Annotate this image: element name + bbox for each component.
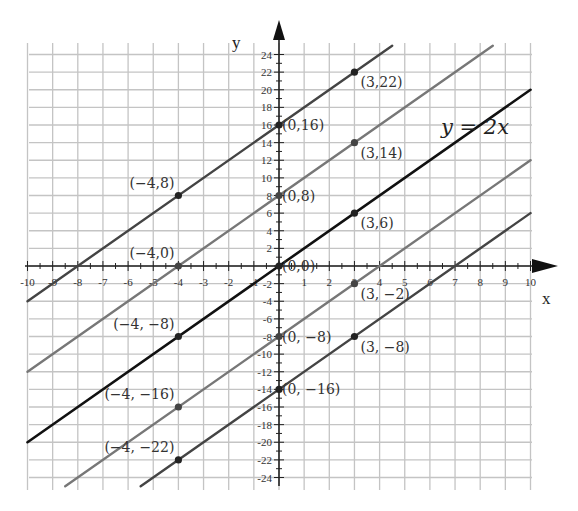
x-tick-label: 9: [503, 276, 509, 288]
data-point-marker: [175, 262, 182, 269]
x-tick-label: 1: [301, 276, 307, 288]
y-tick-label: 16: [261, 119, 273, 131]
y-tick-label: 18: [261, 101, 273, 113]
data-point-label: (−4, −22): [104, 439, 174, 455]
equation-annotation: y = 2x: [440, 115, 509, 139]
data-point-label: (3,6): [360, 215, 393, 231]
data-point-marker: [351, 139, 358, 146]
x-tick-label: -2: [224, 276, 233, 288]
x-tick-label: 10: [525, 276, 537, 288]
data-point-marker: [351, 280, 358, 287]
y-tick-label: -2: [263, 278, 272, 290]
data-point-marker: [351, 210, 358, 217]
data-point-label: (0,0): [282, 258, 315, 274]
y-tick-label: -24: [257, 472, 272, 484]
y-tick-label: -4: [263, 295, 273, 307]
coordinate-plane-chart: -10-9-8-7-6-5-4-3-2-112345678910-24-22-2…: [0, 0, 578, 511]
y-tick-label: -14: [257, 383, 272, 395]
data-point-label: (3, −8): [360, 339, 409, 355]
x-tick-label: -3: [199, 276, 209, 288]
data-point-marker: [351, 69, 358, 76]
x-tick-label: -10: [20, 276, 35, 288]
x-axis-label: x: [542, 289, 551, 308]
data-point-marker: [175, 403, 182, 410]
data-point-label: (3,14): [360, 145, 402, 161]
x-axis-arrow-icon: [532, 259, 558, 273]
y-tick-label: 10: [261, 172, 273, 184]
x-tick-label: 8: [477, 276, 483, 288]
y-tick-label: -18: [257, 419, 272, 431]
x-tick-label: 2: [327, 276, 333, 288]
data-point-marker: [175, 192, 182, 199]
data-point-label: (3,22): [360, 74, 402, 90]
data-point-label: (0,8): [282, 188, 315, 204]
x-tick-label: -8: [73, 276, 83, 288]
y-tick-label: -12: [257, 366, 272, 378]
y-axis-arrow-icon: [273, 20, 285, 40]
series-line: [141, 213, 531, 486]
y-tick-label: -22: [257, 454, 272, 466]
y-tick-label: 12: [261, 154, 272, 166]
y-tick-label: 14: [261, 137, 273, 149]
y-tick-label: -20: [257, 436, 272, 448]
data-point-label: (0, −8): [282, 329, 331, 345]
y-axis-label: y: [232, 33, 241, 52]
x-tick-label: -4: [174, 276, 184, 288]
data-point-label: (0,16): [282, 117, 324, 133]
data-point-marker: [175, 456, 182, 463]
series-line: [28, 46, 393, 302]
y-tick-label: 2: [267, 242, 273, 254]
y-tick-label: -6: [263, 313, 273, 325]
y-tick-label: 4: [267, 225, 273, 237]
data-point-label: (−4,0): [129, 245, 174, 261]
y-tick-label: 20: [261, 84, 273, 96]
data-point-label: (−4,8): [129, 175, 174, 191]
x-tick-label: -7: [98, 276, 108, 288]
x-tick-label: -6: [124, 276, 134, 288]
data-point-label: (−4, −16): [104, 386, 174, 402]
y-tick-label: 22: [261, 66, 272, 78]
y-tick-label: 6: [267, 207, 273, 219]
y-tick-label: 24: [261, 49, 273, 61]
data-point-marker: [351, 333, 358, 340]
data-point-label: (3, −2): [360, 286, 409, 302]
x-tick-label: 7: [452, 276, 458, 288]
data-point-label: (−4, −8): [113, 316, 174, 332]
data-point-label: (0, −16): [282, 381, 340, 397]
data-point-marker: [175, 333, 182, 340]
